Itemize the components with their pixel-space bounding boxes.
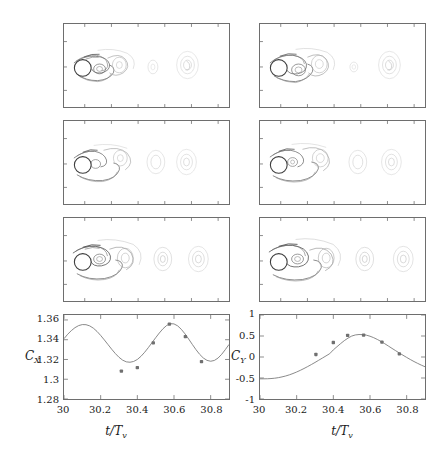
cy-x-axis-label: t/Tv (331, 424, 352, 440)
cx-axis-ticks (64, 315, 229, 399)
wake-contours (73, 240, 208, 280)
cy-xlabel-base: t/T (331, 424, 348, 438)
y-tick-label: 1.32 (15, 354, 59, 365)
data-point-marker (168, 322, 171, 325)
cy-data-markers (314, 333, 401, 356)
vorticity-contour-plot (64, 218, 229, 301)
x-tick-label: 30.8 (191, 404, 231, 415)
cylinder-marker (270, 157, 287, 174)
cx-x-axis-label: t/Tv (105, 424, 126, 440)
panel-row1-left (63, 23, 230, 108)
data-point-marker (152, 341, 155, 344)
y-tick-label: 0 (211, 351, 255, 362)
x-tick-label: 30.6 (350, 404, 390, 415)
cx-xlabel-sub: v (122, 431, 127, 440)
y-tick-label: 1.3 (15, 374, 59, 385)
x-tick-label: 30.2 (80, 404, 120, 415)
cy-axis-ticks (260, 315, 425, 399)
data-point-marker (346, 334, 349, 337)
wake-contours (270, 48, 400, 82)
cylinder-marker (270, 254, 287, 271)
x-tick-label: 30.8 (387, 404, 427, 415)
x-tick-label: 30.2 (276, 404, 316, 415)
vorticity-contour-plot (64, 121, 229, 204)
cx-curve (64, 324, 229, 363)
panel-row3-left (63, 217, 230, 302)
figure-root: CX t/Tv 1.281.31.321.341.36 3030.230.430… (0, 0, 445, 452)
y-tick-label: -0.5 (211, 373, 255, 384)
cylinder-marker (74, 254, 91, 271)
data-point-marker (184, 335, 187, 338)
vorticity-contour-plot (64, 24, 229, 107)
cx-xlabel-base: t/T (105, 424, 122, 438)
cy-xlabel-sub: v (348, 431, 353, 440)
cy-time-series-chart (260, 315, 425, 399)
panel-row1-right (259, 23, 426, 108)
cylinder-marker (74, 60, 91, 77)
vorticity-contour-plot (260, 24, 425, 107)
wake-contours (269, 239, 413, 281)
data-point-marker (398, 352, 401, 355)
y-tick-label: 1.34 (15, 333, 59, 344)
x-tick-label: 30.4 (117, 404, 157, 415)
cx-plot-frame (63, 314, 230, 400)
x-tick-label: 30.6 (154, 404, 194, 415)
panel-row3-right (259, 217, 426, 302)
data-point-marker (380, 340, 383, 343)
x-tick-label: 30 (43, 404, 83, 415)
panel-row2-right (259, 120, 426, 205)
y-tick-label: 1 (211, 308, 255, 319)
cy-plot-frame (259, 314, 426, 400)
data-point-marker (332, 341, 335, 344)
x-tick-label: 30.4 (313, 404, 353, 415)
data-point-marker (362, 333, 365, 336)
vorticity-contour-plot (260, 218, 425, 301)
wake-contours (74, 49, 198, 81)
cylinder-marker (270, 60, 287, 77)
x-tick-label: 30 (239, 404, 279, 415)
cy-curve (260, 335, 425, 379)
panel-row2-left (63, 120, 230, 205)
data-point-marker (200, 360, 203, 363)
cx-time-series-chart (64, 315, 229, 399)
wake-contours (74, 144, 197, 181)
data-point-marker (120, 369, 123, 372)
data-point-marker (136, 366, 139, 369)
wake-contours (270, 143, 401, 182)
data-point-marker (314, 353, 317, 356)
vorticity-contour-plot (260, 121, 425, 204)
y-tick-label: 1.36 (15, 313, 59, 324)
cylinder-marker (74, 157, 91, 174)
y-tick-label: 0.5 (211, 330, 255, 341)
